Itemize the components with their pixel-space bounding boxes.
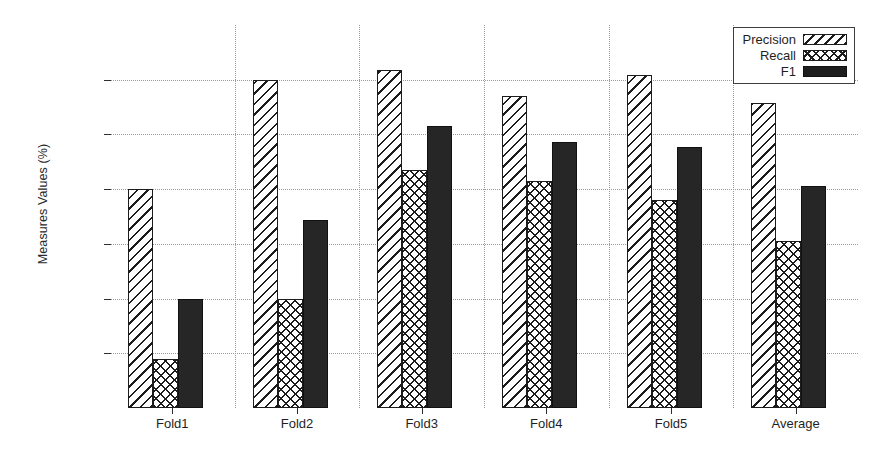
bar-recall-fold1 <box>153 359 178 408</box>
bar-recall-average <box>776 241 801 408</box>
x-axis-label-fold3: Fold3 <box>362 416 482 431</box>
x-axis-label-fold1: Fold1 <box>112 416 232 431</box>
x-axis-label-fold2: Fold2 <box>237 416 357 431</box>
bar-precision-average <box>751 103 776 408</box>
bar-recall-fold4 <box>527 181 552 408</box>
legend-label: Precision <box>743 33 796 46</box>
bar-f1-fold1 <box>178 299 203 408</box>
bar-recall-fold2 <box>278 299 303 408</box>
bar-precision-fold4 <box>502 96 527 408</box>
bar-recall-fold3 <box>402 170 427 408</box>
bar-f1-fold2 <box>303 220 328 408</box>
gridline-vertical <box>609 25 610 408</box>
bar-f1-fold5 <box>677 147 702 408</box>
bar-precision-fold1 <box>128 189 153 408</box>
bar-precision-fold5 <box>627 75 652 408</box>
legend-swatch-precision-icon <box>803 34 847 45</box>
bar-f1-fold4 <box>552 142 577 408</box>
gridline-vertical <box>235 25 236 408</box>
x-tick-mark <box>172 407 173 414</box>
x-axis-label-fold5: Fold5 <box>611 416 731 431</box>
y-axis-title: Measures Values (%) <box>36 74 50 334</box>
y-tick-mark <box>104 189 111 190</box>
legend: PrecisionRecallF1 <box>733 27 855 84</box>
legend-swatch-recall-icon <box>803 50 847 61</box>
legend-item-f1: F1 <box>743 63 847 79</box>
x-tick-mark <box>671 407 672 414</box>
y-tick-mark <box>104 353 111 354</box>
x-tick-mark <box>546 407 547 414</box>
bar-f1-average <box>801 186 826 408</box>
plot-area: PrecisionRecallF1 <box>110 25 858 408</box>
legend-label: F1 <box>781 65 796 78</box>
y-tick-mark <box>104 299 111 300</box>
gridline-vertical <box>484 25 485 408</box>
bar-f1-fold3 <box>427 126 452 408</box>
x-axis-label-average: Average <box>736 416 856 431</box>
legend-swatch-f1-icon <box>803 66 847 77</box>
bar-recall-fold5 <box>652 200 677 408</box>
legend-item-precision: Precision <box>743 31 847 47</box>
x-tick-mark <box>297 407 298 414</box>
bar-chart: Measures Values (%) 30405060708090100 Pr… <box>0 0 881 454</box>
legend-item-recall: Recall <box>743 47 847 63</box>
y-tick-mark <box>104 244 111 245</box>
bar-precision-fold2 <box>253 80 278 408</box>
y-tick-mark <box>104 134 111 135</box>
bar-precision-fold3 <box>377 70 402 408</box>
y-tick-mark <box>104 80 111 81</box>
x-tick-mark <box>796 407 797 414</box>
gridline-vertical <box>359 25 360 408</box>
x-tick-mark <box>422 407 423 414</box>
legend-label: Recall <box>760 49 796 62</box>
x-axis-label-fold4: Fold4 <box>486 416 606 431</box>
